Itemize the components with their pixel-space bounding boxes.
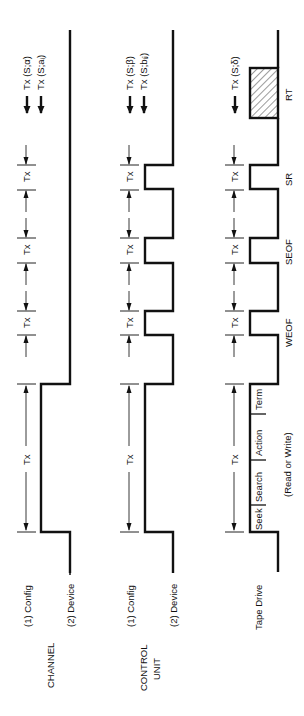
dimension-arrow-icon bbox=[24, 157, 29, 165]
arrow-down-icon bbox=[127, 106, 134, 114]
dimension-arrow-icon bbox=[127, 230, 132, 238]
svg-text:Tx: Tx bbox=[124, 454, 135, 465]
dimension-arrow-icon bbox=[232, 230, 237, 238]
svg-text:Tx: Tx bbox=[229, 244, 240, 255]
dimension-arrow-icon bbox=[232, 263, 237, 271]
svg-text:Tx: Tx bbox=[124, 317, 135, 328]
control-unit-config-label: (1) Config bbox=[125, 585, 136, 627]
segment-action-label: Action bbox=[253, 430, 264, 456]
dimension-arrow-icon bbox=[232, 157, 237, 165]
dimension-arrow-icon bbox=[127, 157, 132, 165]
event-weof-label: WEOF bbox=[283, 318, 294, 347]
channel-tx-dimension-sr: Tx bbox=[17, 145, 36, 212]
event-sr-label: SR bbox=[283, 173, 294, 186]
arrow-down-icon bbox=[24, 106, 31, 114]
svg-text:Tx: Tx bbox=[124, 244, 135, 255]
svg-text:Tx (S;β): Tx (S;β) bbox=[124, 56, 135, 90]
svg-text:Tx (S;bᵢⱼ): Tx (S;bᵢⱼ) bbox=[138, 53, 149, 90]
tape-drive-tx-dimension-seof: Tx bbox=[225, 218, 244, 285]
tape-drive-title: Tape Drive bbox=[253, 585, 264, 630]
svg-text:Tx: Tx bbox=[229, 454, 240, 465]
dimension-arrow-icon bbox=[24, 263, 29, 271]
channel-tx-arrow-ai: Tx (S;aᵢ) bbox=[35, 55, 46, 114]
channel-tx-dimension-command: Tx bbox=[17, 384, 36, 532]
dimension-arrow-icon bbox=[127, 385, 132, 393]
dimension-arrow-icon bbox=[24, 523, 29, 531]
channel-device-label: (2) Device bbox=[65, 584, 76, 627]
arrow-down-icon bbox=[141, 106, 148, 114]
control-unit-tx-dimension-weof: Tx bbox=[120, 291, 139, 357]
arrow-down-icon bbox=[232, 106, 239, 114]
tape-drive-tx-dimension-command: Tx bbox=[225, 384, 244, 532]
svg-text:Tx (S;aᵢ): Tx (S;aᵢ) bbox=[35, 55, 46, 90]
dimension-arrow-icon bbox=[127, 335, 132, 343]
svg-text:Tx: Tx bbox=[124, 171, 135, 182]
dimension-arrow-icon bbox=[24, 385, 29, 393]
dimension-arrow-icon bbox=[232, 303, 237, 311]
segment-seek-label: Seek bbox=[253, 508, 264, 530]
control-unit-signal-waveform bbox=[145, 30, 173, 573]
dimension-arrow-icon bbox=[127, 523, 132, 531]
dimension-arrow-icon bbox=[232, 523, 237, 531]
channel-tx-arrow-alpha: Tx (S;α) bbox=[21, 56, 32, 114]
control-unit-tx-arrow-bij: Tx (S;bᵢⱼ) bbox=[138, 53, 149, 114]
control-unit-title-line2: UNIT bbox=[151, 658, 162, 680]
control-unit-title-line1: CONTROL bbox=[138, 645, 149, 691]
control-unit-device-label: (2) Device bbox=[168, 584, 179, 627]
dimension-arrow-icon bbox=[232, 385, 237, 393]
dimension-arrow-icon bbox=[127, 303, 132, 311]
tape-drive-tx-dimension-weof: Tx bbox=[225, 291, 244, 357]
svg-text:Tx: Tx bbox=[229, 171, 240, 182]
channel-title: CHANNEL bbox=[45, 643, 56, 688]
event-seof-label: SEOF bbox=[283, 239, 294, 265]
dimension-arrow-icon bbox=[24, 335, 29, 343]
control-unit-column: Tx (S;β) Tx (S;bᵢⱼ) Tx Tx bbox=[120, 30, 179, 691]
svg-text:Tx: Tx bbox=[21, 171, 32, 182]
control-unit-tx-dimension-seof: Tx bbox=[120, 218, 139, 285]
segment-note-label: (Read or Write) bbox=[282, 432, 293, 497]
svg-text:Tx: Tx bbox=[21, 244, 32, 255]
channel-tx-dimension-weof: Tx bbox=[17, 291, 36, 357]
dimension-arrow-icon bbox=[232, 335, 237, 343]
svg-text:Tx: Tx bbox=[21, 317, 32, 328]
control-unit-tx-arrow-beta: Tx (S;β) bbox=[124, 56, 135, 114]
rt-hatched-block bbox=[250, 68, 278, 118]
channel-column: Tx (S;α) Tx (S;aᵢ) Tx Tx bbox=[17, 30, 76, 688]
channel-signal-waveform bbox=[41, 30, 70, 573]
svg-text:Tx (S;α): Tx (S;α) bbox=[21, 56, 32, 90]
timing-diagram: Tx (S;α) Tx (S;aᵢ) Tx Tx bbox=[0, 0, 304, 716]
segment-search-label: Search bbox=[253, 472, 264, 502]
control-unit-tx-dimension-sr: Tx bbox=[120, 145, 139, 212]
svg-text:Tx: Tx bbox=[21, 454, 32, 465]
tape-drive-tx-arrow-delta: Tx (S;δ) bbox=[229, 56, 240, 114]
dimension-arrow-icon bbox=[24, 303, 29, 311]
svg-text:Tx: Tx bbox=[229, 317, 240, 328]
segment-term-label: Term bbox=[253, 389, 264, 410]
event-rt-label: RT bbox=[283, 88, 294, 101]
control-unit-tx-dimension-command: Tx bbox=[120, 384, 139, 532]
tape-drive-tx-dimension-sr: Tx bbox=[225, 145, 244, 212]
dimension-arrow-icon bbox=[127, 190, 132, 198]
dimension-arrow-icon bbox=[232, 190, 237, 198]
channel-config-label: (1) Config bbox=[22, 585, 33, 627]
channel-tx-dimension-seof: Tx bbox=[17, 218, 36, 285]
svg-text:Tx (S;δ): Tx (S;δ) bbox=[229, 56, 240, 90]
dimension-arrow-icon bbox=[127, 263, 132, 271]
dimension-arrow-icon bbox=[24, 190, 29, 198]
arrow-down-icon bbox=[38, 106, 45, 114]
tape-drive-column: Seek Search Action Term (Read or Write) … bbox=[225, 30, 294, 630]
dimension-arrow-icon bbox=[24, 230, 29, 238]
